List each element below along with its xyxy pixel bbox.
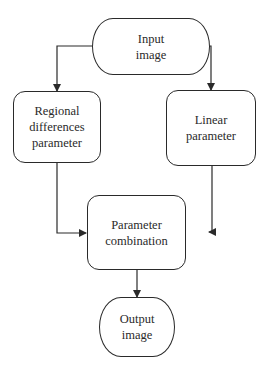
edge-input-to-regional <box>57 46 92 91</box>
node-label: Linear parameter <box>186 112 236 144</box>
node-output-image: Output image <box>99 297 175 357</box>
node-label: Parameter combination <box>105 217 168 249</box>
node-regional-differences-parameter: Regional differences parameter <box>13 91 101 163</box>
node-parameter-combination: Parameter combination <box>87 195 186 270</box>
node-linear-parameter: Linear parameter <box>166 90 256 166</box>
edge-linear-to-combination <box>209 165 212 232</box>
node-input-image: Input image <box>92 18 210 75</box>
node-label: Input image <box>136 31 167 63</box>
node-label: Output image <box>120 311 155 343</box>
edge-input-to-linear <box>210 46 211 90</box>
node-label: Regional differences parameter <box>29 103 84 151</box>
edge-regional-to-combination <box>57 163 86 233</box>
